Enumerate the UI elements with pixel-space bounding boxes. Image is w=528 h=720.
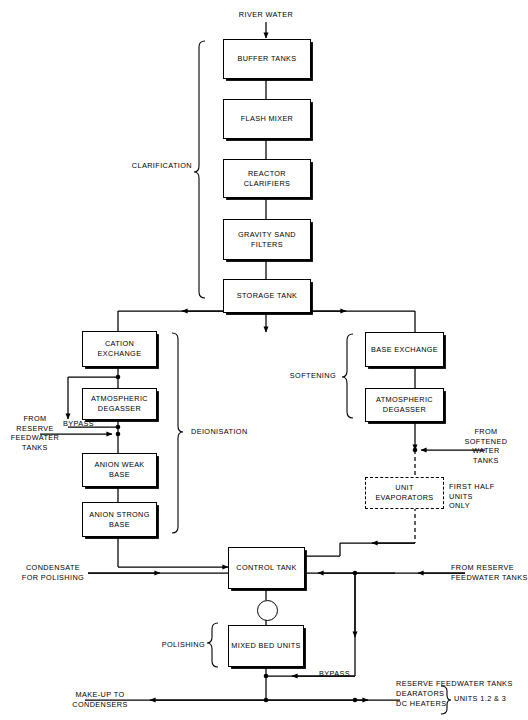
- box-storage-tank-label: STORAGE TANK: [237, 291, 298, 301]
- box-reactor-clarifiers-label: REACTOR CLARIFIERS: [224, 169, 310, 188]
- box-flash-mixer-label: FLASH MIXER: [241, 114, 294, 124]
- box-unit-evaporators[interactable]: UNIT EVAPORATORS: [365, 477, 444, 509]
- label-bypass-left: BYPASS: [63, 419, 113, 429]
- label-first-half-units-only: FIRST HALF UNITS ONLY: [449, 482, 513, 511]
- junction-reserve-left: [116, 432, 121, 437]
- box-atmospheric-degasser-right[interactable]: ATMOSPHERIC DEGASSER: [365, 388, 444, 422]
- label-bypass-bottom: BYPASS: [292, 669, 350, 679]
- junction-bypass-merge: [264, 674, 269, 679]
- bracket-polishing: [207, 623, 218, 667]
- box-anion-weak-base[interactable]: ANION WEAK BASE: [82, 453, 157, 487]
- label-from-softened-water-tanks: FROM SOFTENED WATER TANKS: [455, 427, 517, 465]
- box-control-tank[interactable]: CONTROL TANK: [228, 547, 305, 589]
- box-gravity-sand-filters-label: GRAVITY SAND FILTERS: [224, 230, 310, 249]
- junction-bypass-tap: [353, 571, 358, 576]
- box-buffer-tanks[interactable]: BUFFER TANKS: [223, 39, 311, 79]
- box-flash-mixer[interactable]: FLASH MIXER: [223, 99, 311, 139]
- box-base-exchange[interactable]: BASE EXCHANGE: [365, 332, 444, 367]
- junction-bottom-right: [353, 698, 358, 703]
- bracket-clarification: [194, 41, 205, 298]
- label-dc-heaters: DC HEATERS: [396, 699, 456, 709]
- junction-bypass-bottom: [116, 425, 121, 430]
- label-units-1-2-3: UNITS 1.2 & 3: [454, 694, 520, 704]
- junction-bottom: [264, 698, 269, 703]
- box-atmospheric-degasser-left[interactable]: ATMOSPHERIC DEGASSER: [82, 388, 157, 420]
- box-anion-strong-base[interactable]: ANION STRONG BASE: [82, 502, 157, 537]
- label-river-water: RIVER WATER: [216, 10, 316, 20]
- junction-softened: [413, 448, 418, 453]
- label-condensate-for-polishing: CONDENSATE FOR POLISHING: [15, 563, 91, 582]
- box-atmospheric-degasser-left-label: ATMOSPHERIC DEGASSER: [83, 394, 156, 413]
- junction-bypass-top: [116, 375, 121, 380]
- label-from-reserve-feedwater-left: FROM RESERVE FEEDWATER TANKS: [6, 414, 64, 452]
- label-clarification: CLARIFICATION: [100, 161, 192, 171]
- box-mixed-bed-units-label: MIXED BED UNITS: [231, 641, 300, 651]
- label-dearators: DEARATORS: [396, 689, 456, 699]
- box-cation-exchange[interactable]: CATION EXCHANGE: [82, 331, 157, 367]
- box-storage-tank[interactable]: STORAGE TANK: [223, 279, 311, 313]
- label-deionisation: DEIONISATION: [191, 427, 281, 437]
- pump-icon: [257, 600, 278, 621]
- box-atmospheric-degasser-right-label: ATMOSPHERIC DEGASSER: [366, 395, 443, 414]
- box-unit-evaporators-label: UNIT EVAPORATORS: [366, 483, 443, 502]
- label-softening: SOFTENING: [258, 371, 336, 381]
- label-polishing: POLISHING: [125, 640, 205, 650]
- box-reactor-clarifiers[interactable]: REACTOR CLARIFIERS: [223, 159, 311, 198]
- bracket-softening: [342, 334, 353, 418]
- label-from-reserve-feedwater-right: FROM RESERVE FEEDWATER TANKS: [451, 563, 527, 582]
- label-make-up-to-condensers: MAKE-UP TO CONDENSERS: [62, 690, 138, 709]
- box-cation-exchange-label: CATION EXCHANGE: [83, 339, 156, 358]
- box-base-exchange-label: BASE EXCHANGE: [371, 345, 438, 355]
- label-reserve-feedwater-tanks: RESERVE FEEDWATER TANKS: [396, 679, 516, 689]
- bracket-deionisation: [172, 333, 183, 533]
- box-anion-weak-base-label: ANION WEAK BASE: [83, 460, 156, 479]
- box-mixed-bed-units[interactable]: MIXED BED UNITS: [228, 625, 304, 667]
- box-gravity-sand-filters[interactable]: GRAVITY SAND FILTERS: [223, 219, 311, 260]
- box-control-tank-label: CONTROL TANK: [236, 563, 296, 573]
- box-buffer-tanks-label: BUFFER TANKS: [237, 54, 296, 64]
- box-anion-strong-base-label: ANION STRONG BASE: [83, 510, 156, 529]
